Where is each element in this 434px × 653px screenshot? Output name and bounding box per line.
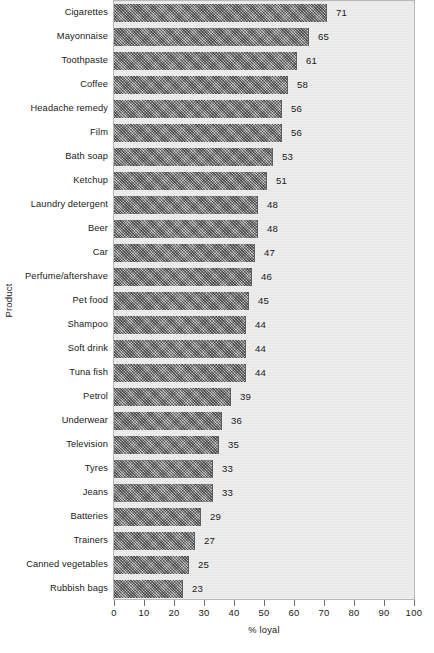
x-tick xyxy=(324,600,325,606)
bar-value-label: 23 xyxy=(192,580,203,598)
x-tick-label: 50 xyxy=(258,607,269,618)
bar-value-label: 33 xyxy=(222,484,233,502)
bar xyxy=(114,532,195,550)
y-axis-title-text: Product xyxy=(3,283,14,317)
bar-value-label: 56 xyxy=(291,100,302,118)
x-tick-label: 30 xyxy=(198,607,209,618)
bar-value-label: 35 xyxy=(228,436,239,454)
bar xyxy=(114,580,183,598)
x-tick xyxy=(234,600,235,606)
y-axis-title: Product xyxy=(0,0,16,600)
bar-value-label: 65 xyxy=(318,28,329,46)
category-label: Film xyxy=(90,123,108,141)
category-label: Rubbish bags xyxy=(50,579,108,597)
category-label: Mayonnaise xyxy=(57,27,108,45)
x-tick xyxy=(414,600,415,606)
x-tick-label: 60 xyxy=(288,607,299,618)
x-tick-label: 100 xyxy=(406,607,423,618)
bar xyxy=(114,268,252,286)
bar-value-label: 36 xyxy=(231,412,242,430)
bar xyxy=(114,148,273,166)
x-tick xyxy=(114,600,115,606)
bar-value-label: 71 xyxy=(336,4,347,22)
bar xyxy=(114,316,246,334)
bar xyxy=(114,388,231,406)
category-label: Tuna fish xyxy=(69,363,108,381)
x-axis-title: % loyal xyxy=(113,625,415,635)
bar-value-label: 48 xyxy=(267,220,278,238)
bar xyxy=(114,220,258,238)
bar xyxy=(114,292,249,310)
bar-value-label: 48 xyxy=(267,196,278,214)
category-label: Trainers xyxy=(73,531,108,549)
x-axis-ticks xyxy=(113,600,415,607)
category-label: Petrol xyxy=(83,387,108,405)
bar-value-label: 46 xyxy=(261,268,272,286)
bar xyxy=(114,196,258,214)
category-label: Batteries xyxy=(70,507,108,525)
category-label: Laundry detergent xyxy=(31,195,108,213)
bar xyxy=(114,412,222,430)
x-tick-label: 80 xyxy=(348,607,359,618)
bar-value-label: 58 xyxy=(297,76,308,94)
category-label: Underwear xyxy=(62,411,108,429)
x-tick-label: 40 xyxy=(228,607,239,618)
category-label: Cigarettes xyxy=(65,3,108,21)
bar-value-label: 53 xyxy=(282,148,293,166)
bar xyxy=(114,100,282,118)
x-tick xyxy=(294,600,295,606)
bar-value-label: 44 xyxy=(255,316,266,334)
bar-value-label: 39 xyxy=(240,388,251,406)
bar-value-label: 25 xyxy=(198,556,209,574)
category-label: Jeans xyxy=(83,483,108,501)
x-tick xyxy=(174,600,175,606)
category-label: Soft drink xyxy=(68,339,108,357)
category-label: Car xyxy=(93,243,108,261)
category-label: Beer xyxy=(88,219,108,237)
bar xyxy=(114,364,246,382)
category-label: Bath soap xyxy=(65,147,108,165)
category-label: Pet food xyxy=(73,291,108,309)
x-tick xyxy=(204,600,205,606)
category-label: Headache remedy xyxy=(31,99,108,117)
category-label: Shampoo xyxy=(68,315,109,333)
bar xyxy=(114,484,213,502)
x-tick xyxy=(354,600,355,606)
bar xyxy=(114,124,282,142)
bar-value-label: 33 xyxy=(222,460,233,478)
x-tick xyxy=(384,600,385,606)
bar-value-label: 47 xyxy=(264,244,275,262)
bar xyxy=(114,436,219,454)
bar xyxy=(114,28,309,46)
category-label: Canned vegetables xyxy=(26,555,108,573)
bar-value-label: 44 xyxy=(255,340,266,358)
bar xyxy=(114,52,297,70)
x-tick xyxy=(264,600,265,606)
bar xyxy=(114,508,201,526)
plot-area: 7165615856565351484847464544444439363533… xyxy=(113,0,415,600)
x-tick-label: 20 xyxy=(168,607,179,618)
category-label: Television xyxy=(66,435,108,453)
bar-value-label: 56 xyxy=(291,124,302,142)
bar xyxy=(114,460,213,478)
bar xyxy=(114,4,327,22)
bar-value-label: 27 xyxy=(204,532,215,550)
bar-value-label: 45 xyxy=(258,292,269,310)
category-label: Tyres xyxy=(85,459,108,477)
bar-value-label: 61 xyxy=(306,52,317,70)
category-label: Perfume/aftershave xyxy=(25,267,108,285)
bar-chart: Product CigarettesMayonnaiseToothpasteCo… xyxy=(0,0,434,653)
x-tick-label: 70 xyxy=(318,607,329,618)
bar xyxy=(114,340,246,358)
category-label: Coffee xyxy=(80,75,108,93)
bar xyxy=(114,76,288,94)
bar-value-label: 44 xyxy=(255,364,266,382)
bar xyxy=(114,172,267,190)
x-axis-tick-labels: 0102030405060708090100 xyxy=(113,607,415,623)
bar-value-label: 51 xyxy=(276,172,287,190)
x-tick-label: 0 xyxy=(111,607,117,618)
x-tick-label: 90 xyxy=(378,607,389,618)
bar xyxy=(114,556,189,574)
category-label: Toothpaste xyxy=(62,51,109,69)
category-label: Ketchup xyxy=(73,171,108,189)
